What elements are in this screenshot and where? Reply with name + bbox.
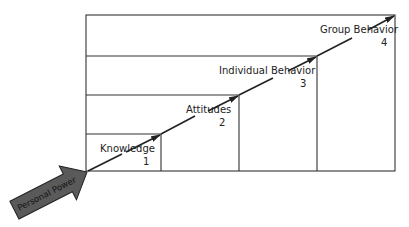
step-number: 2 <box>219 117 225 128</box>
step-label: Attitudes <box>186 104 231 115</box>
staircase-diagram: Knowledge 1 Attitudes 2 Individual Behav… <box>0 0 409 227</box>
step-label: Knowledge <box>100 143 155 154</box>
step-individual-behavior: Individual Behavior 3 <box>219 65 316 89</box>
step-number: 3 <box>300 78 306 89</box>
step-attitudes: Attitudes 2 <box>186 104 231 128</box>
step-label: Individual Behavior <box>219 65 316 76</box>
personal-power-arrow: Personal Power <box>6 156 96 227</box>
step-knowledge: Knowledge 1 <box>100 143 155 167</box>
step-number: 1 <box>143 156 149 167</box>
step-group-behavior: Group Behavior 4 <box>320 24 399 48</box>
step-label: Group Behavior <box>320 24 399 35</box>
step-number: 4 <box>381 37 387 48</box>
